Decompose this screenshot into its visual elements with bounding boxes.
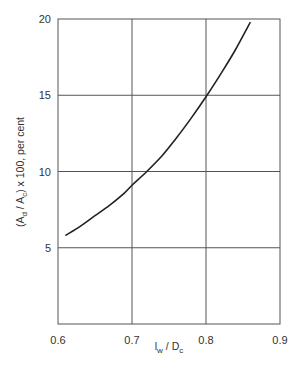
y-tick-label: 20 bbox=[39, 13, 51, 25]
chart: 0.60.70.80.9 5101520 lw / Dc (Ad / Ac) x… bbox=[0, 0, 301, 370]
x-tick-label: 0.6 bbox=[50, 334, 65, 346]
y-axis-label: (Ad / Ac) x 100, per cent bbox=[14, 117, 29, 227]
x-tick-label: 0.9 bbox=[272, 334, 287, 346]
data-curve bbox=[65, 22, 250, 236]
y-tick-label: 10 bbox=[39, 166, 51, 178]
x-axis-label: lw / Dc bbox=[155, 340, 183, 355]
y-tick-label: 15 bbox=[39, 89, 51, 101]
x-tick-label: 0.8 bbox=[198, 334, 213, 346]
y-tick-labels: 5101520 bbox=[39, 13, 51, 254]
grid-lines bbox=[58, 19, 280, 324]
y-tick-label: 5 bbox=[45, 242, 51, 254]
x-tick-label: 0.7 bbox=[124, 334, 139, 346]
